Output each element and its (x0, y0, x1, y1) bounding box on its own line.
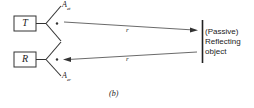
receiver-label: R (14, 53, 36, 64)
receiver-antenna-icon (46, 42, 61, 76)
transmitter-antenna-icon (46, 6, 61, 41)
return-range-label: r (126, 55, 129, 63)
transmitter-label: T (14, 17, 36, 28)
forward-range-label: r (126, 26, 129, 34)
return-path-arrow (63, 52, 197, 62)
forward-path-arrow (64, 22, 198, 33)
receiver-antenna-label: Aer (62, 71, 71, 82)
transmitter-antenna-label: Aet (62, 0, 71, 11)
figure-caption: (b) (109, 89, 118, 98)
reflecting-object-label: (Passive) Reflecting object (205, 27, 241, 57)
